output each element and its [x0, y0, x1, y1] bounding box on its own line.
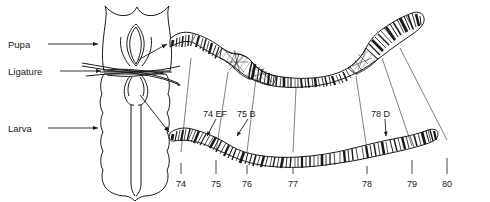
gland-to-chromosome-arrows: [138, 44, 169, 132]
figure-drawing: [0, 0, 490, 202]
division-label-80: 80: [442, 180, 452, 189]
larva-gland-pointer: [140, 95, 169, 132]
pupa-gland-pointer: [138, 44, 167, 60]
gut-line-left: [131, 104, 135, 196]
puff-75b-arrow: [237, 119, 248, 136]
division-label-74: 74: [176, 180, 186, 189]
puff-region-75b-pupal: [249, 62, 276, 85]
larva-gland-left-inner: [128, 77, 132, 96]
larva-gland-left: [124, 76, 134, 105]
label-larva: Larva: [8, 124, 32, 134]
label-ligature: Ligature: [8, 67, 42, 77]
larval-chromosome-drawing: [169, 128, 438, 168]
pupal-chromosome-drawing: [170, 12, 424, 88]
larva-abdomen-outline: [100, 74, 170, 201]
larva-body-drawing: [100, 6, 171, 201]
label-leader-arrows: [48, 44, 101, 128]
label-puff-75b: 75 B: [237, 110, 256, 119]
pupal-chromosome-outline: [170, 12, 424, 87]
label-pupa: Pupa: [8, 40, 30, 50]
pupa-gland-left-inner: [136, 24, 144, 66]
label-puff-78d: 78 D: [371, 110, 390, 119]
puff-74ef-arrow: [207, 119, 216, 136]
division-label-76: 76: [242, 180, 252, 189]
puff-region-74ef-pupal: [220, 48, 252, 79]
division-label-79: 79: [407, 180, 417, 189]
puff-label-arrows: [207, 119, 386, 136]
division-label-75: 75: [211, 180, 221, 189]
larva-gland-right-inner: [140, 77, 144, 96]
division-label-77: 77: [288, 180, 298, 189]
division-label-78: 78: [362, 180, 372, 189]
figure-ligatured-larva-chromosome-puffs: Pupa Ligature Larva 74 EF 75 B 78 D 74 7…: [0, 0, 490, 202]
pupa-gland-flank-left: [120, 37, 130, 66]
label-puff-74ef: 74 EF: [203, 110, 227, 119]
pupa-gland-left-outer: [127, 24, 136, 66]
puff-78d-arrow: [385, 119, 386, 136]
gut-line-right: [136, 104, 141, 196]
larva-gland-right: [138, 76, 148, 105]
